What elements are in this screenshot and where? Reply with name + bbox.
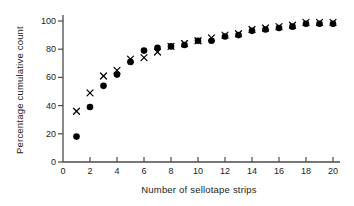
x-tick-label: 2 <box>87 166 92 176</box>
chart-figure: Percentage cumulative count Number of se… <box>0 0 354 206</box>
cross-marker <box>87 90 93 96</box>
circle-marker <box>276 25 283 32</box>
x-tick-label: 20 <box>328 166 338 176</box>
circle-marker <box>262 26 269 33</box>
y-axis-label: Percentage cumulative count <box>14 10 30 170</box>
x-tick-label: 14 <box>247 166 257 176</box>
circle-data-points <box>73 21 336 140</box>
x-tick-label: 4 <box>114 166 119 176</box>
circle-marker <box>330 21 337 28</box>
circle-marker <box>222 33 229 40</box>
x-tick-label: 10 <box>193 166 203 176</box>
cross-marker <box>101 73 107 79</box>
y-tick-label: 100 <box>26 16 56 26</box>
circle-marker <box>87 104 94 111</box>
cross-marker <box>141 55 147 61</box>
circle-marker <box>235 32 242 39</box>
y-axis-ticks <box>58 21 63 162</box>
y-tick-label: 20 <box>26 129 56 139</box>
x-axis-label: Number of sellotape strips <box>63 184 335 195</box>
circle-marker <box>141 47 148 54</box>
y-tick-label: 0 <box>26 157 56 167</box>
circle-marker <box>289 23 296 30</box>
circle-marker <box>303 21 310 28</box>
x-tick-label: 18 <box>301 166 311 176</box>
cross-data-points <box>74 19 337 114</box>
cross-marker <box>74 108 80 114</box>
circle-marker <box>73 133 80 140</box>
y-tick-label: 60 <box>26 72 56 82</box>
circle-marker <box>181 42 188 49</box>
x-tick-label: 6 <box>141 166 146 176</box>
x-axis-ticks <box>90 157 333 162</box>
x-tick-label: 8 <box>168 166 173 176</box>
y-tick-label: 40 <box>26 101 56 111</box>
circle-marker <box>249 28 256 35</box>
x-tick-label: 16 <box>274 166 284 176</box>
x-tick-label: 0 <box>60 166 65 176</box>
x-tick-label: 12 <box>220 166 230 176</box>
circle-marker <box>100 83 107 90</box>
y-tick-label: 80 <box>26 44 56 54</box>
circle-marker <box>316 21 323 28</box>
